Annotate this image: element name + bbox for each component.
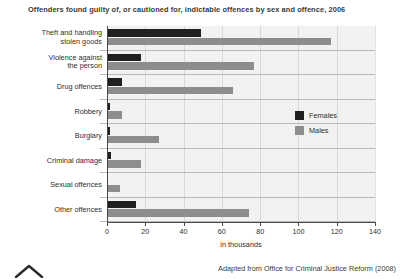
category-label: Burglary: [4, 132, 102, 141]
bar-males: [107, 111, 122, 119]
category-row: Theft and handling stolen goods: [0, 26, 402, 51]
bar-females: [107, 78, 122, 86]
category-label: Drug offences: [4, 83, 102, 92]
category-label: Robbery: [4, 107, 102, 116]
bar-group: [107, 51, 375, 76]
x-tick-label: 140: [369, 227, 381, 236]
category-row: Criminal damage: [0, 149, 402, 174]
x-tick-label: 40: [180, 227, 188, 236]
x-tick-label: 100: [292, 227, 304, 236]
y-axis-line: [107, 26, 108, 223]
legend-item-females: Females: [295, 108, 381, 123]
bar-group: [107, 75, 375, 100]
category-label: Sexual offences: [4, 181, 102, 190]
bar-group: [107, 26, 375, 51]
bar-males: [107, 160, 141, 168]
legend-label: Males: [309, 126, 328, 135]
category-row: Violence against the person: [0, 51, 402, 76]
x-axis-label: in thousands: [107, 240, 375, 249]
category-row: Drug offences: [0, 75, 402, 100]
bar-males: [107, 136, 159, 144]
bar-males: [107, 62, 254, 70]
x-tick-label: 20: [141, 227, 149, 236]
bar-males: [107, 38, 331, 46]
chart-figure: Offenders found guilty of, or cautioned …: [0, 0, 402, 279]
bar-females: [107, 201, 136, 209]
category-label: Other offences: [4, 205, 102, 214]
category-row: Other offences: [0, 198, 402, 223]
bar-males: [107, 87, 233, 95]
bar-females: [107, 29, 201, 37]
chart-title: Offenders found guilty of, or cautioned …: [28, 5, 374, 14]
x-axis-ticks: 020406080100120140: [0, 222, 402, 240]
bar-group: [107, 173, 375, 198]
source-note: Adapted from Office for Criminal Justice…: [218, 264, 396, 273]
category-label: Theft and handling stolen goods: [4, 30, 102, 47]
x-tick-label: 120: [331, 227, 343, 236]
bar-males: [107, 185, 120, 193]
category-row: Sexual offences: [0, 173, 402, 198]
x-tick-label: 0: [105, 227, 109, 236]
chart-legend: FemalesMales: [295, 108, 381, 138]
x-axis-line: [107, 222, 376, 223]
x-tick-label: 60: [218, 227, 226, 236]
category-label: Criminal damage: [4, 156, 102, 165]
bar-males: [107, 209, 249, 217]
bar-group: [107, 149, 375, 174]
legend-swatch-males: [295, 126, 304, 135]
bar-group: [107, 198, 375, 223]
bar-females: [107, 54, 141, 62]
page-corner-mark: [14, 264, 44, 278]
category-label: Violence against the person: [4, 54, 102, 71]
legend-item-males: Males: [295, 123, 381, 138]
legend-swatch-females: [295, 111, 304, 120]
x-tick-label: 80: [256, 227, 264, 236]
legend-label: Females: [309, 111, 337, 120]
